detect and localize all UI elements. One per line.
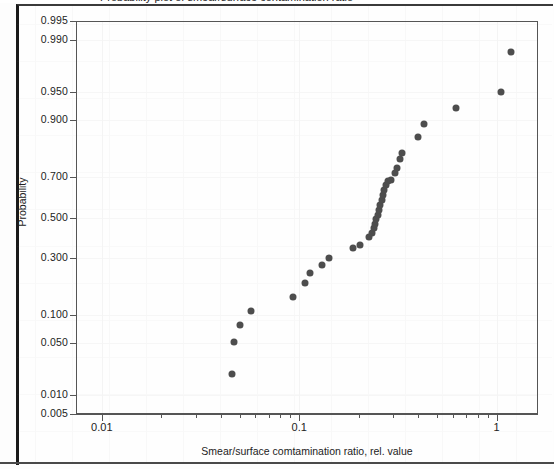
y-axis-tick: [70, 92, 76, 93]
y-axis-tick-label: 0.500: [41, 212, 68, 222]
x-axis-tick: [466, 414, 467, 418]
y-axis-tick-label: 0.995: [41, 15, 68, 25]
y-axis-tick-label: 0.010: [41, 389, 68, 399]
figure-bottom-rule: [0, 462, 554, 464]
data-point: [387, 176, 394, 183]
x-axis-tick: [280, 414, 281, 418]
data-point: [452, 104, 459, 111]
x-axis-title: Smear/surface comtamination ratio, rel. …: [76, 445, 538, 457]
x-axis-tick-label: 0.1: [292, 421, 307, 433]
y-axis-tick: [70, 395, 76, 396]
x-axis-line: [76, 414, 538, 415]
x-axis-tick: [453, 414, 454, 418]
y-axis-line: [76, 21, 77, 414]
y-axis-tick: [70, 120, 76, 121]
x-axis-tick: [359, 414, 360, 418]
data-point: [231, 338, 238, 345]
data-point: [497, 89, 504, 96]
y-axis-tick: [70, 315, 76, 316]
y-axis-tick-label: 0.700: [41, 171, 68, 181]
x-axis-tick: [393, 414, 394, 418]
y-axis-labels: 0.9950.9900.9500.9000.7000.5000.3000.100…: [0, 0, 68, 469]
chart-page: Probability plot of smear/surface contam…: [0, 0, 554, 469]
x-axis-tick: [437, 414, 438, 418]
x-axis-tick: [478, 414, 479, 418]
data-point: [248, 308, 255, 315]
data-point: [398, 150, 405, 157]
plot-frame: [76, 21, 538, 414]
x-axis-tick: [418, 414, 419, 418]
y-axis-tick: [70, 218, 76, 219]
cut-off-caption: Probability plot of smear/surface contam…: [0, 0, 554, 3]
y-axis-tick-label: 0.990: [41, 34, 68, 44]
data-point: [318, 262, 325, 269]
y-axis-tick: [70, 414, 76, 415]
cut-off-caption-text: Probability plot of smear/surface contam…: [100, 0, 353, 3]
data-point: [290, 293, 297, 300]
x-axis-tick-label: 1: [494, 421, 500, 433]
x-axis-tick: [255, 414, 256, 418]
data-point: [507, 48, 514, 55]
x-axis-tick: [240, 414, 241, 418]
x-axis-tick: [196, 414, 197, 418]
x-axis-tick: [299, 414, 300, 421]
data-point: [421, 120, 428, 127]
data-point: [393, 165, 400, 172]
y-axis-tick: [70, 177, 76, 178]
x-axis-tick: [290, 414, 291, 418]
x-axis-tick: [488, 414, 489, 418]
y-axis-tick: [70, 258, 76, 259]
y-axis-tick-label: 0.950: [41, 86, 68, 96]
data-point: [326, 254, 333, 261]
x-axis-tick-label: 0.01: [91, 421, 112, 433]
y-axis-tick-label: 0.900: [41, 114, 68, 124]
y-axis-tick-label: 0.300: [41, 252, 68, 262]
y-axis-tick-label: 0.005: [41, 408, 68, 418]
x-axis-tick: [161, 414, 162, 418]
y-axis-title: Probability: [16, 142, 28, 262]
y-axis-tick-label: 0.100: [41, 309, 68, 319]
x-axis-tick: [102, 414, 103, 421]
data-point: [307, 269, 314, 276]
data-point: [415, 133, 422, 140]
y-axis-tick: [70, 343, 76, 344]
y-axis-tick-label: 0.050: [41, 337, 68, 347]
data-point: [302, 280, 309, 287]
y-axis-tick: [70, 40, 76, 41]
y-axis-tick: [70, 21, 76, 22]
data-point: [236, 321, 243, 328]
x-axis-tick: [221, 414, 222, 418]
data-point: [356, 241, 363, 248]
x-axis-tick: [497, 414, 498, 421]
data-point: [228, 371, 235, 378]
x-axis-tick: [269, 414, 270, 418]
